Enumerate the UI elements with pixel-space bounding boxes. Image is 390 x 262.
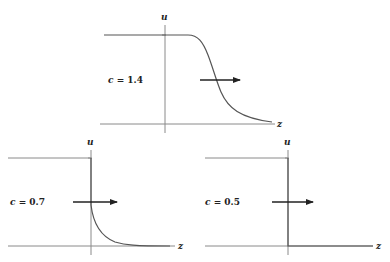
z-axis-label: z — [177, 241, 184, 251]
u-axis-label: u — [284, 137, 291, 147]
diagram-canvas: u z c = 1.4 u z c = 0.7 u z c = 0.5 — [0, 0, 390, 262]
z-axis-label: z — [375, 241, 382, 251]
c-value-label: c = 0.5 — [205, 197, 240, 207]
z-axis-label: z — [276, 119, 283, 129]
panel-bottom-left: u z c = 0.7 — [8, 137, 184, 255]
u-axis-label: u — [87, 137, 94, 147]
panel-top: u z c = 1.4 — [100, 12, 283, 133]
panel-bottom-right: u z c = 0.5 — [205, 137, 382, 255]
c-value-label: c = 0.7 — [10, 197, 45, 207]
c-value-label: c = 1.4 — [108, 75, 143, 85]
u-axis-label: u — [161, 12, 168, 22]
